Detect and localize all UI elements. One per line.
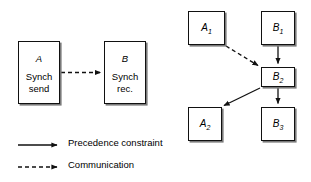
node-b2-label: B2 <box>273 71 284 84</box>
solid-arrow-icon <box>18 137 64 149</box>
node-a1-subscript: 1 <box>208 28 212 35</box>
legend-item-precedence: Precedence constraint <box>18 136 163 150</box>
edge-a1-to-b2 <box>226 46 258 66</box>
node-a1-base: A <box>201 22 208 33</box>
node-synch-send: A Synch send <box>18 41 60 104</box>
node-a2-subscript: 2 <box>206 124 210 131</box>
node-synch-rec-body: Synch rec. <box>112 71 138 94</box>
dashed-arrow-icon <box>18 159 64 171</box>
node-a1: A1 <box>188 11 225 45</box>
legend-label-precedence: Precedence constraint <box>68 137 163 149</box>
node-b1: B1 <box>261 11 295 45</box>
node-synch-rec: B Synch rec. <box>104 41 146 104</box>
node-b3-subscript: 3 <box>279 124 283 131</box>
node-synch-send-title: A <box>36 53 42 64</box>
legend-label-communication: Communication <box>68 159 134 171</box>
node-b1-label: B1 <box>273 22 284 35</box>
node-b2: B2 <box>261 67 295 87</box>
node-b2-subscript: 2 <box>279 77 283 84</box>
figure-canvas: A Synch send B Synch rec. A1 B1 B2 A2 B3 <box>0 0 311 182</box>
node-a1-label: A1 <box>201 22 212 35</box>
legend-item-communication: Communication <box>18 158 134 172</box>
node-synch-send-body: Synch send <box>26 71 52 94</box>
node-b1-subscript: 1 <box>279 28 283 35</box>
node-b3: B3 <box>261 107 295 141</box>
node-synch-rec-title: B <box>122 53 128 64</box>
node-b3-label: B3 <box>273 118 284 131</box>
node-a2-label: A2 <box>200 118 211 131</box>
edge-b2-to-a2 <box>224 88 260 106</box>
node-a2: A2 <box>188 107 222 141</box>
